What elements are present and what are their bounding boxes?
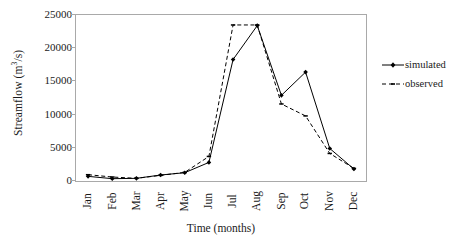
y-axis-tick-mark: [70, 80, 75, 81]
x-axis-tick-label: Sep: [273, 182, 287, 220]
legend-label-simulated: simulated: [404, 59, 446, 70]
x-axis-tick-label: May: [177, 182, 191, 220]
chart-legend: simulated observed: [382, 55, 462, 93]
y-axis-tick-label: 0: [26, 175, 72, 186]
x-axis-tick-label: Mar: [128, 182, 142, 220]
x-axis-tick-label-text: Sep: [274, 192, 286, 209]
x-axis-tick-label: Jan: [80, 182, 94, 220]
x-axis-tick-label-text: Oct: [299, 193, 311, 210]
x-axis-tick-label: Feb: [104, 182, 118, 220]
legend-item-simulated: simulated: [382, 55, 462, 74]
y-axis-tick-label: 10000: [26, 108, 72, 119]
x-axis-tick-label-text: Jul: [226, 194, 238, 207]
x-axis-tick-label-text: Nov: [323, 191, 335, 211]
y-axis-tick-mark: [70, 180, 75, 181]
x-axis-tick-label-text: Feb: [105, 192, 117, 209]
y-axis-tick-mark: [70, 47, 75, 48]
y-axis-title-superscript: 3: [10, 62, 19, 66]
series-line-simulated: [88, 26, 354, 179]
y-axis-tick-label: 15000: [26, 75, 72, 86]
legend-item-observed: observed: [382, 74, 462, 93]
legend-label-observed: observed: [404, 78, 443, 89]
y-axis-title-text: Streamflow (m3/s): [10, 50, 24, 136]
x-axis-tick-label-text: Jun: [202, 193, 214, 209]
x-axis-tick-labels: JanFebMarAprMayJunJulAugSepOctNovDec: [75, 182, 367, 222]
x-axis-tick-label-text: Jan: [81, 193, 93, 208]
y-axis-tick-mark: [70, 114, 75, 115]
y-axis-tick-label: 20000: [26, 42, 72, 53]
x-axis-tick-label-text: Mar: [129, 191, 141, 210]
legend-swatch-solid-icon: [382, 60, 404, 70]
y-axis-tick-mark: [70, 147, 75, 148]
y-axis-tick-label: 5000: [26, 141, 72, 152]
x-axis-tick-label: Aug: [249, 182, 263, 220]
legend-swatch-dashed-icon: [382, 79, 404, 89]
chart-figure: Streamflow (m3/s) 0500010000150002000025…: [0, 0, 463, 248]
series-line-observed: [88, 25, 354, 178]
data-point-marker-simulated: [207, 160, 212, 165]
y-axis-tick-mark: [70, 14, 75, 15]
y-axis-tick-labels: 0500010000150002000025000: [24, 0, 72, 248]
x-axis-tick-label-text: May: [178, 190, 190, 211]
y-axis-tick-label: 25000: [26, 9, 72, 20]
x-axis-tick-label: Dec: [346, 182, 360, 220]
x-axis-tick-label: Apr: [153, 182, 167, 220]
x-axis-tick-label-text: Aug: [250, 191, 262, 211]
x-axis-tick-label: Jul: [225, 182, 239, 220]
x-axis-tick-label: Oct: [298, 182, 312, 220]
x-axis-tick-label: Jun: [201, 182, 215, 220]
plot-svg: [76, 15, 366, 181]
x-axis-tick-label-text: Dec: [347, 192, 359, 211]
x-axis-title: Time (months): [75, 222, 367, 234]
x-axis-tick-label: Nov: [322, 182, 336, 220]
x-axis-tick-label-text: Apr: [154, 192, 166, 210]
plot-area: [75, 14, 367, 182]
